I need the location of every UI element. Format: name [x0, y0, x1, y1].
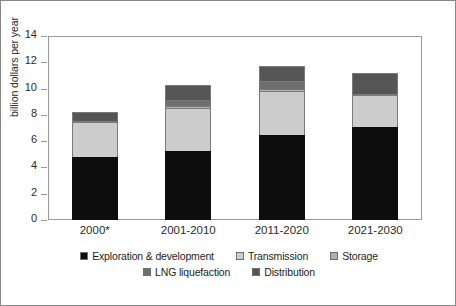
bar-segment	[165, 108, 211, 151]
legend-swatch-icon	[143, 268, 151, 276]
chart-figure: billion dollars per year 02468101214 200…	[0, 0, 456, 306]
y-tick-mark	[41, 62, 47, 63]
legend-label: Distribution	[264, 266, 315, 278]
legend-row-secondary: LNG liquefactionDistribution	[1, 266, 456, 278]
y-tick-label: 8	[31, 107, 37, 119]
bar-segment	[72, 112, 118, 121]
chart-legend: Exploration & developmentTransmissionSto…	[1, 250, 456, 282]
legend-item: Distribution	[252, 266, 315, 278]
legend-swatch-icon	[252, 268, 260, 276]
y-axis-title: billion dollars per year	[8, 0, 20, 142]
legend-item: Storage	[330, 250, 378, 262]
legend-row-primary: Exploration & developmentTransmissionSto…	[1, 250, 456, 262]
bar-segment	[352, 73, 398, 93]
bar-segment	[352, 95, 398, 127]
y-tick-mark	[41, 115, 47, 116]
y-tick-label: 10	[25, 81, 37, 93]
y-tick-mark	[41, 220, 47, 221]
y-tick-label: 4	[31, 159, 37, 171]
legend-item: LNG liquefaction	[143, 266, 230, 278]
y-tick-label: 2	[31, 186, 37, 198]
y-tick-label: 14	[25, 28, 37, 40]
bar-segment	[165, 151, 211, 220]
y-tick-label: 0	[31, 212, 37, 224]
x-tick-label: 2000*	[48, 224, 142, 236]
x-tick-label: 2011-2020	[235, 224, 329, 236]
legend-label: Storage	[342, 250, 378, 262]
y-tick-label: 12	[25, 54, 37, 66]
y-tick-mark	[41, 141, 47, 142]
x-tick-label: 2021-2030	[329, 224, 423, 236]
bar-segment	[72, 157, 118, 220]
legend-item: Transmission	[236, 250, 308, 262]
x-tick-label: 2001-2010	[142, 224, 236, 236]
bar-stack	[165, 85, 211, 220]
bars-layer	[48, 36, 422, 220]
bar-stack	[259, 66, 305, 220]
bar-group	[165, 36, 211, 220]
bar-segment	[259, 81, 305, 88]
bar-segment	[352, 127, 398, 220]
y-tick-mark	[41, 89, 47, 90]
legend-swatch-icon	[80, 252, 88, 260]
y-tick-mark	[41, 167, 47, 168]
bar-stack	[352, 73, 398, 220]
bar-group	[72, 36, 118, 220]
legend-label: Transmission	[248, 250, 308, 262]
y-tick-mark	[41, 194, 47, 195]
bar-segment	[259, 91, 305, 134]
bar-segment	[259, 135, 305, 220]
legend-swatch-icon	[330, 252, 338, 260]
y-tick-label: 6	[31, 133, 37, 145]
bar-group	[259, 36, 305, 220]
bar-stack	[72, 112, 118, 220]
bar-segment	[165, 85, 211, 100]
bar-segment	[72, 122, 118, 157]
legend-item: Exploration & development	[80, 250, 214, 262]
bar-group	[352, 36, 398, 220]
legend-swatch-icon	[236, 252, 244, 260]
legend-label: LNG liquefaction	[155, 266, 230, 278]
bar-segment	[259, 66, 305, 82]
y-tick-mark	[41, 36, 47, 37]
legend-label: Exploration & development	[92, 250, 214, 262]
